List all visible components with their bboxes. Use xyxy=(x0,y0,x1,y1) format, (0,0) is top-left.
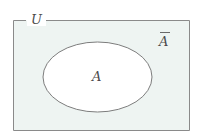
complement-label-letter: A xyxy=(159,35,170,48)
universal-set-label: U xyxy=(27,13,46,26)
complement-label: A xyxy=(159,32,170,48)
overbar-icon xyxy=(160,32,170,33)
venn-diagram-canvas: U A A xyxy=(0,0,200,139)
set-a-label: A xyxy=(92,70,101,83)
